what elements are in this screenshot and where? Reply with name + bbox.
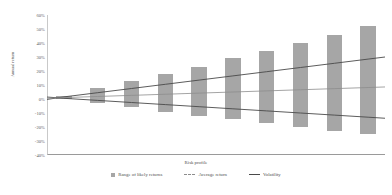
y-axis-tick-label: 50% (36, 27, 45, 32)
y-axis-tick-label: 0% (39, 97, 45, 102)
line-series-layer (47, 15, 385, 155)
y-axis-tick-labels: 60%50%40%30%20%10%0%-10%-20%-30%-40% (20, 15, 45, 155)
legend-item-range[interactable]: Range of likely returns (111, 172, 162, 177)
legend-label-volatility: Volatility (263, 172, 281, 177)
volatility-upper-line (47, 57, 385, 99)
dashed-line-icon (184, 174, 195, 175)
legend-label-range: Range of likely returns (118, 172, 162, 177)
plot-area (47, 15, 385, 155)
y-axis-tick-label: 30% (36, 55, 45, 60)
y-axis-tick-label: -30% (35, 139, 45, 144)
y-axis-title: Annual return (10, 5, 15, 125)
chart-container: 60%50%40%30%20%10%0%-10%-20%-30%-40% Ann… (0, 0, 392, 195)
y-axis-tick-label: -20% (35, 125, 45, 130)
volatility-lower-line (47, 97, 385, 118)
y-axis-tick-label: -40% (35, 153, 45, 158)
legend-item-average-return[interactable]: Average return (184, 172, 227, 177)
y-axis-tick-label: 40% (36, 41, 45, 46)
legend-item-volatility[interactable]: Volatility (249, 172, 281, 177)
legend-label-average-return: Average return (198, 172, 227, 177)
square-swatch-icon (111, 173, 115, 177)
solid-line-icon (249, 174, 260, 175)
y-axis-tick-label: 60% (36, 13, 45, 18)
x-axis-title: Risk profile (0, 160, 392, 165)
y-axis-tick-label: -10% (35, 111, 45, 116)
y-axis-tick-label: 10% (36, 83, 45, 88)
chart-legend: Range of likely returns Average return V… (0, 172, 392, 177)
y-axis-tick-label: 20% (36, 69, 45, 74)
